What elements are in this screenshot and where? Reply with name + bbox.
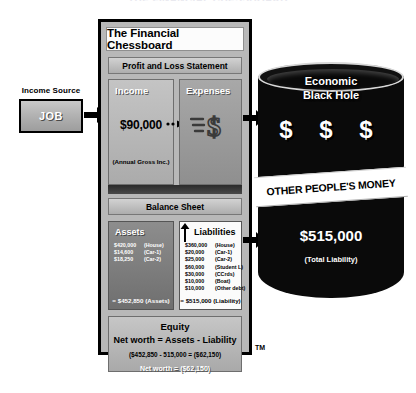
black-hole-amount: $515,000 xyxy=(258,227,404,244)
expenses-box: Expenses $ xyxy=(179,79,242,185)
assets-total: = $452,850 (Assets) xyxy=(109,297,173,304)
list-item: $420,000(House) xyxy=(114,242,173,249)
income-note: (Annual Gross Inc.) xyxy=(109,158,173,165)
panel-divider-shadow xyxy=(108,185,242,194)
top-title: THE FINANCIAL CHESSBOARD xyxy=(0,0,416,1)
liabilities-list: $360,000(House) $20,000(Car-1) $25,000(C… xyxy=(185,242,241,292)
profit-loss-header-label: Profit and Loss Statement xyxy=(122,61,227,71)
balance-sheet-header-label: Balance Sheet xyxy=(146,202,204,212)
income-box: Income $90,000 (Annual Gross Inc.) xyxy=(108,79,174,185)
black-hole-title: Economic Black Hole xyxy=(258,74,404,102)
liabilities-total: = $515,000 (Liability) xyxy=(180,297,241,304)
other-peoples-money-label: OTHER PEOPLE'S MONEY xyxy=(266,177,396,198)
trademark-mark: TM xyxy=(255,344,265,351)
income-header: Income xyxy=(115,85,173,96)
list-item: $30,000(CCrds) xyxy=(185,271,241,278)
panel-title-bar: The Financial Chessboard xyxy=(106,27,244,51)
list-item: $60,000(Student L) xyxy=(185,264,241,271)
arrow-up-to-liabilities-icon xyxy=(179,222,191,242)
list-item: $360,000(House) xyxy=(185,242,241,249)
income-source-label: Income Source xyxy=(12,86,90,95)
equity-header: Equity xyxy=(109,321,241,332)
black-hole-sub-label: (Total Liability) xyxy=(258,255,404,264)
money-flying-dollar-icon: $ xyxy=(180,108,241,146)
panel-title: The Financial Chessboard xyxy=(107,27,243,51)
black-hole-title-line1: Economic xyxy=(258,74,404,88)
assets-header: Assets xyxy=(115,227,173,237)
dollar-symbols: $ $ $ xyxy=(258,116,404,144)
balance-sheet-header: Balance Sheet xyxy=(108,198,242,215)
assets-box: Assets $420,000(House) $14,600(Car-1) $1… xyxy=(108,221,174,310)
expenses-header: Expenses xyxy=(186,85,241,96)
financial-chessboard-panel: The Financial Chessboard Profit and Loss… xyxy=(98,19,252,355)
job-box-label: JOB xyxy=(39,110,63,122)
equity-net-worth: Net worth = ($62,150) xyxy=(109,365,241,372)
equity-formula: Net worth = Assets - Liability xyxy=(109,335,241,345)
income-amount: $90,000 xyxy=(109,118,173,132)
diagram-canvas: THE FINANCIAL CHESSBOARD Income Source J… xyxy=(0,0,416,393)
equity-calculation: ($452,850 - 515,000 = ($62,150) xyxy=(109,351,241,358)
liabilities-header: Liabilities xyxy=(194,227,241,237)
list-item: $25,000(Car-2) xyxy=(185,256,241,263)
black-hole-title-line2: Black Hole xyxy=(258,88,404,102)
assets-list: $420,000(House) $14,600(Car-1) $18,250(C… xyxy=(114,242,173,264)
list-item: $10,000(Boat) xyxy=(185,278,241,285)
economic-black-hole: Economic Black Hole $ $ $ OTHER PEOPLE'S… xyxy=(258,62,404,312)
equity-box: Equity Net worth = Assets - Liability ($… xyxy=(108,316,242,372)
list-item: $18,250(Car-2) xyxy=(114,256,173,263)
profit-loss-header: Profit and Loss Statement xyxy=(108,57,242,74)
list-item: $10,000(Other debt) xyxy=(185,285,241,292)
list-item: $20,000(Car-1) xyxy=(185,249,241,256)
list-item: $14,600(Car-1) xyxy=(114,249,173,256)
job-box: JOB xyxy=(19,99,83,133)
svg-text:$: $ xyxy=(207,111,221,142)
